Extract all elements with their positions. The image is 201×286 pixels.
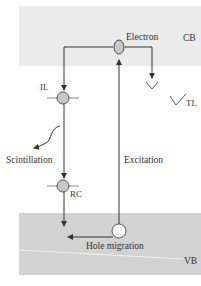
il-label: IL <box>40 83 49 92</box>
electron-icon <box>114 40 124 54</box>
trap-icon <box>146 82 158 89</box>
il-center-icon <box>57 92 69 104</box>
scintillation-arrow <box>34 126 60 148</box>
hole-migration-label: Hole migration <box>86 242 144 252</box>
tl-trap-icon <box>170 94 186 105</box>
conduction-band <box>19 6 201 66</box>
hole-icon <box>112 224 126 238</box>
electron-label: Electron <box>126 33 158 43</box>
excitation-label: Excitation <box>124 156 163 166</box>
tl-label: TL <box>186 99 197 108</box>
rc-label: RC <box>70 190 82 199</box>
scintillation-label: Scintillation <box>6 156 52 166</box>
rc-center-icon <box>57 180 69 192</box>
valence-band-label: VB <box>184 257 197 267</box>
conduction-band-label: CB <box>183 34 196 44</box>
